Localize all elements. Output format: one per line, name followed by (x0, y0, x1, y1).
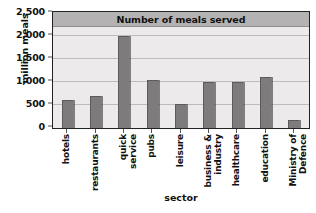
x-axis-category-line: quick (118, 134, 128, 160)
bar (260, 77, 271, 128)
bar (175, 104, 186, 128)
x-axis-tick-mark (123, 129, 124, 133)
x-axis-tick-mark (265, 129, 266, 133)
x-axis-category-line: restaurants (90, 134, 100, 191)
x-axis-category-line: pubs (146, 134, 156, 158)
y-axis-tick-label: 500 (26, 98, 45, 109)
bar (118, 36, 129, 128)
bar (232, 82, 243, 128)
gridline (53, 35, 309, 36)
x-axis-tick-mark (180, 129, 181, 133)
x-axis-tick-mark (151, 129, 152, 133)
x-axis-category-line: business & (203, 134, 213, 188)
y-axis-tick-label: 1,000 (16, 75, 45, 86)
x-axis-tick-mark (236, 129, 237, 133)
y-axis-tick-label: 2,000 (16, 29, 45, 40)
bar-chart: million meals 05001,0001,5002,0002,500 N… (0, 0, 316, 213)
x-axis-category-line: hotels (61, 134, 71, 164)
x-axis-category-line: Ministry of (288, 134, 298, 187)
bar (288, 120, 299, 128)
x-axis-category-line: leisure (175, 134, 185, 167)
plot-inner: Number of meals served (53, 12, 309, 128)
x-axis-title: sector (52, 192, 310, 203)
y-axis-tick-label: 1,500 (16, 52, 45, 63)
x-axis-tick-mark (208, 129, 209, 133)
x-axis-tick-mark (95, 129, 96, 133)
bar (90, 96, 101, 128)
chart-title-banner: Number of meals served (53, 12, 309, 27)
chart-title: Number of meals served (117, 14, 246, 25)
gridline (53, 58, 309, 59)
x-axis-tick-mark (293, 129, 294, 133)
bar (203, 82, 214, 128)
y-axis-tick-labels: 05001,0001,5002,0002,500 (4, 11, 48, 128)
x-axis-category-line: healthcare (231, 134, 241, 186)
y-axis-tick-label: 2,500 (16, 6, 45, 17)
x-axis-tick-mark (66, 129, 67, 133)
bar (147, 80, 158, 128)
plot-area: Number of meals served (52, 11, 310, 129)
y-axis-tick-label: 0 (39, 121, 45, 132)
bar (62, 100, 73, 128)
x-axis-category-line: education (260, 134, 270, 183)
